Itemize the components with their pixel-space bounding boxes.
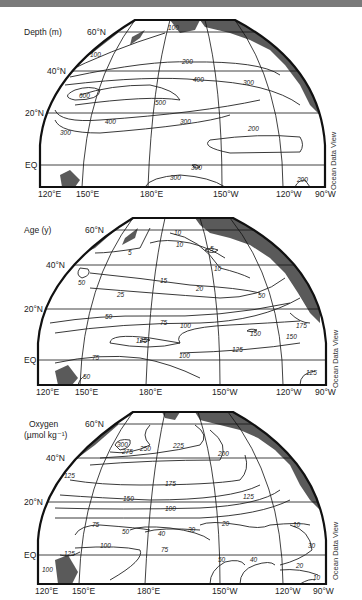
ocean-data-view-credit: Ocean Data View [329,132,338,190]
lat-label-40n: 40°N [46,260,65,270]
contour-label: 300 [60,129,71,136]
lon-label-150w: 150°W [212,586,238,596]
contour-label: 100 [100,542,111,549]
contour-label: 150 [286,333,297,340]
lat-label-20n: 20°N [24,497,43,507]
age-map: 5 10 10 5 10 50 15 20 25 50 50 75 100 12… [0,203,362,398]
lon-label-150w: 150°W [212,387,238,397]
contour-label: 150 [123,495,134,502]
lon-label-120e: 120°E [35,586,58,596]
contour-label: 125 [64,472,75,479]
map-panel-oxygen: 300 275 250 225 200 125 175 150 125 100 … [0,400,362,595]
lat-label-60n: 60°N [85,419,104,429]
contour-label: 20 [221,520,230,527]
lat-label-40n: 40°N [46,453,65,463]
contour-label: 5 [210,245,214,252]
lon-label-90w: 90°W [313,586,334,596]
variable-label: Age (y) [24,225,51,235]
contour-label: 100 [180,322,191,329]
contour-label: 75 [161,546,169,553]
contour-label: 40 [250,556,258,563]
lat-label-60n: 60°N [87,27,106,37]
contour-label: 225 [172,442,184,449]
contour-label: 75 [92,354,100,361]
contour-label: 50 [122,528,130,535]
lon-label-150e: 150°E [75,387,98,397]
lon-label-180e: 180°E [140,189,163,199]
contour-label: 400 [105,118,116,125]
lon-label-90w: 90°W [315,189,336,199]
lat-label-40n: 40°N [47,66,66,76]
contour-label: 50 [218,556,226,563]
contour-label: 20 [195,285,204,292]
contour-label: 300 [117,441,128,448]
ocean-data-view-credit: Ocean Data View [331,522,340,580]
contour-label: 75 [92,521,100,528]
lon-label-120w: 120°W [276,189,302,199]
contour-label: 125 [136,337,147,344]
contour-label: 175 [165,480,176,487]
contour-label: 100 [168,24,179,31]
contour-label: 125 [232,346,243,353]
lon-label-120e: 120°E [38,189,61,199]
contour-label: 100 [42,566,53,573]
contour-label: 300 [191,164,202,171]
contour-label: 10 [313,574,321,581]
lon-label-180e: 180°E [137,586,160,596]
contour-label: 300 [170,174,181,181]
lon-label-150w: 150°W [213,189,239,199]
lon-label-90w: 90°W [315,387,336,397]
contour-label: 50 [83,373,91,380]
contour-label: 10 [174,229,182,236]
lat-label-eq: EQ [25,160,37,170]
contour-label: 25 [116,291,125,298]
contour-label: 175 [296,322,307,329]
contour-label: 125 [306,369,317,376]
contour-label: 40 [158,530,166,537]
variable-unit-label: (µmol kg⁻¹) [24,430,67,440]
contour-label: 10 [214,265,222,272]
contour-label: 50 [105,313,113,320]
lon-label-150e: 150°E [72,586,95,596]
contour-label: 275 [121,448,133,455]
ocean-data-view-credit: Ocean Data View [331,330,340,388]
contour-label: 50 [78,279,86,286]
lat-label-20n: 20°N [24,304,43,314]
variable-label: Oxygen [29,419,58,429]
contour-label: 30 [308,542,316,549]
contour-label: 400 [193,76,204,83]
contour-label: 200 [296,176,308,183]
contour-label: 10 [176,241,184,248]
contour-label: 100 [179,352,190,359]
contour-label: 75 [160,319,168,326]
contour-label: 20 [295,562,304,569]
lat-label-60n: 60°N [85,225,104,235]
contour-label: 50 [258,292,266,299]
contour-label: 500 [155,99,166,106]
map-panel-age: 5 10 10 5 10 50 15 20 25 50 50 75 100 12… [0,203,362,398]
lon-label-120w: 120°W [276,387,302,397]
lon-label-180e: 180°E [139,387,162,397]
contour-label: 10 [293,521,301,528]
contour-label: 200 [247,125,259,132]
lat-label-20n: 20°N [25,108,44,118]
contour-label: 100 [165,505,176,512]
lon-label-120e: 120°E [36,387,59,397]
contour-label: 300 [243,79,254,86]
contour-label: 150 [250,330,261,337]
contour-label: 125 [64,550,75,557]
lon-label-150e: 150°E [76,189,99,199]
contour-label: 5 [128,249,132,256]
contour-label: 200 [217,450,229,457]
contour-label: 250 [139,445,151,452]
lon-label-120w: 120°W [275,586,301,596]
contour-label: 200 [181,58,193,65]
contour-label: 30 [188,526,196,533]
contour-label: 300 [180,118,191,125]
lat-label-eq: EQ [24,550,36,560]
contour-label: 600 [79,92,90,99]
contour-label: 125 [243,493,254,500]
map-panel-depth: 100 100 200 400 300 600 500 400 300 300 … [0,5,362,200]
contour-label: 15 [160,277,168,284]
lat-label-eq: EQ [24,355,36,365]
